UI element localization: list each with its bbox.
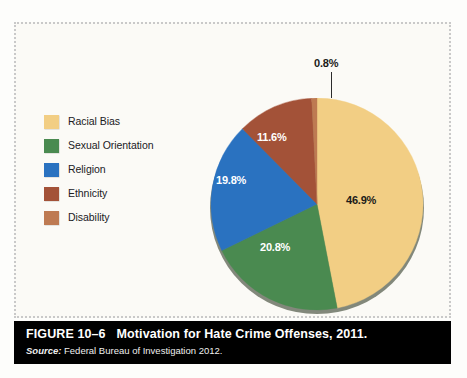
legend-item-racial-bias[interactable]: Racial Bias — [44, 110, 204, 133]
pie-slices — [210, 98, 426, 314]
pie-chart: Racial Bias Sexual Orientation Religion … — [14, 22, 451, 318]
legend-swatch-religion — [44, 163, 59, 177]
slice-label-ethnicity: 11.6% — [257, 132, 287, 143]
legend-item-sexual-orientation[interactable]: Sexual Orientation — [44, 134, 204, 157]
source-text: Federal Bureau of Investigation 2012. — [64, 345, 222, 356]
legend-label-ethnicity: Ethnicity — [68, 188, 107, 199]
slice-label-racial-bias: 46.9% — [346, 195, 376, 206]
callout-leader-line — [331, 72, 332, 98]
figure-caption-bar: FIGURE 10–6Motivation for Hate Crime Off… — [14, 321, 451, 364]
legend-label-religion: Religion — [68, 164, 106, 175]
legend-swatch-disability — [44, 211, 59, 225]
pie-graphic — [210, 98, 426, 314]
legend-label-racial-bias: Racial Bias — [68, 116, 120, 127]
legend-item-disability[interactable]: Disability — [44, 206, 204, 229]
figure-number: FIGURE 10–6 — [26, 327, 106, 341]
legend-item-ethnicity[interactable]: Ethnicity — [44, 182, 204, 205]
chart-legend: Racial Bias Sexual Orientation Religion … — [44, 110, 204, 230]
legend-item-religion[interactable]: Religion — [44, 158, 204, 181]
slice-label-sexual-orientation: 20.8% — [260, 242, 290, 253]
legend-label-sexual-orientation: Sexual Orientation — [68, 140, 153, 151]
legend-label-disability: Disability — [68, 212, 110, 223]
figure-page: Racial Bias Sexual Orientation Religion … — [0, 0, 467, 378]
legend-swatch-sexual-orientation — [44, 139, 59, 153]
slice-label-religion: 19.8% — [216, 175, 246, 186]
source-label: Source: — [26, 345, 61, 356]
figure-title-text: Motivation for Hate Crime Offenses, 2011… — [117, 327, 368, 341]
legend-swatch-racial-bias — [44, 115, 59, 129]
slice-label-disability: 0.8% — [314, 58, 338, 69]
figure-source-line: Source: Federal Bureau of Investigation … — [26, 345, 451, 357]
legend-swatch-ethnicity — [44, 187, 59, 201]
figure-caption-title: FIGURE 10–6Motivation for Hate Crime Off… — [26, 326, 451, 343]
